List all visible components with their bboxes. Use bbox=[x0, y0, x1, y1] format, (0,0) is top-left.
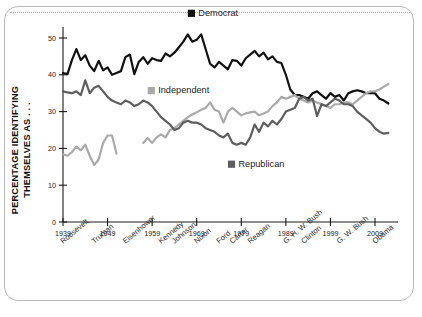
legend-label-democrat: Democrat bbox=[198, 8, 238, 18]
legend-label-republican: Republican bbox=[238, 159, 284, 169]
y-axis-title-line2: THEMSELVES AS . . . bbox=[22, 102, 32, 198]
y-axis-tick-label: 40 bbox=[48, 70, 56, 79]
y-axis-tick-label: 20 bbox=[48, 144, 56, 153]
legend-label-independent: Independent bbox=[158, 85, 210, 95]
chart-figure: 0102030405019391949195919691979198919992… bbox=[0, 0, 422, 317]
president-label: G. W. Bush bbox=[335, 214, 370, 246]
y-axis-tick-label: 10 bbox=[48, 181, 56, 190]
y-axis-tick-label: 30 bbox=[48, 107, 56, 116]
series-line-independent bbox=[63, 136, 116, 165]
y-axis-tick-label: 0 bbox=[52, 218, 56, 227]
legend-swatch-democrat bbox=[188, 10, 195, 17]
series-line-democrat bbox=[63, 34, 388, 103]
y-axis-title-line1: PERCENTAGE IDENTIFYING bbox=[10, 86, 20, 214]
y-axis-tick-label: 50 bbox=[48, 34, 56, 43]
president-label: Reagan bbox=[246, 222, 272, 246]
legend-swatch-independent bbox=[148, 87, 155, 94]
legend-swatch-republican bbox=[228, 161, 235, 168]
line-chart-plot: 0102030405019391949195919691979198919992… bbox=[0, 0, 422, 317]
